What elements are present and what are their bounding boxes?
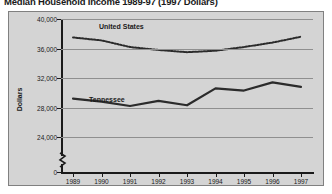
x-axis-tick-label: 1992	[151, 178, 165, 185]
y-axis-tick-labels: 024,00028,00032,00036,00040,000	[23, 19, 57, 167]
x-axis-tick-label: 1995	[237, 178, 251, 185]
x-axis-tick-label: 1991	[123, 178, 137, 185]
x-axis-tick-label: 1994	[208, 178, 222, 185]
y-axis-tick-label: 36,000	[37, 45, 57, 52]
y-axis-tick-label: 32,000	[37, 75, 57, 82]
chart-title: Median Household Income 1989-97 (1997 Do…	[4, 0, 328, 7]
gridline	[61, 108, 313, 109]
plot-area: United States Tennessee	[61, 19, 313, 167]
x-axis-tick-mark	[244, 174, 245, 177]
x-axis-tick-mark	[130, 174, 131, 177]
gridline	[61, 49, 313, 50]
series-label-tennessee: Tennessee	[89, 96, 125, 103]
plot-frame: Dollars 024,00028,00032,00036,00040,000 …	[8, 11, 324, 186]
x-axis-tick-labels: 198919901991199219931994199519961997	[61, 178, 314, 188]
x-axis-tick-mark	[73, 174, 74, 177]
x-axis-tick-label: 1989	[66, 178, 80, 185]
y-axis-tick-label: 28,000	[37, 104, 57, 111]
x-axis-tick-label: 1996	[265, 178, 279, 185]
x-axis-tick-label: 1993	[180, 178, 194, 185]
gridline	[61, 19, 313, 20]
chart-figure: Median Household Income 1989-97 (1997 Do…	[0, 0, 332, 194]
series-line-united-states	[73, 37, 301, 52]
x-axis-tick-mark	[187, 174, 188, 177]
series-label-united-states: United States	[99, 23, 144, 30]
x-axis-tick-mark	[102, 174, 103, 177]
y-axis-tick-label: 40,000	[37, 16, 57, 23]
x-axis-tick-label: 1990	[94, 178, 108, 185]
x-axis-tick-mark	[273, 174, 274, 177]
gridline	[61, 78, 313, 79]
x-axis-tick-mark	[159, 174, 160, 177]
series-lines	[61, 19, 313, 167]
x-axis-tick-mark	[301, 174, 302, 177]
x-axis-tick-label: 1997	[294, 178, 308, 185]
x-axis-tick-mark	[216, 174, 217, 177]
y-axis-tick-label: 24,000	[37, 134, 57, 141]
gridline	[61, 137, 313, 138]
